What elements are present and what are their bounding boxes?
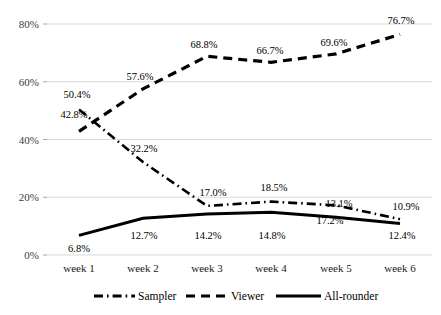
chart-canvas: 80% 60% 40% 20% 0% week 1 week 2 week 3 … <box>0 0 441 315</box>
legend-label-sampler[interactable]: Sampler <box>138 290 176 303</box>
data-label-viewer-week-4: 66.7% <box>256 45 283 56</box>
x-tick-label-week-2: week 2 <box>127 262 158 274</box>
data-label-sampler-week-1: 50.4% <box>63 89 90 100</box>
y-tick-label-80: 80% <box>19 18 39 30</box>
data-label-sampler-week-5: 17.2% <box>316 215 343 226</box>
data-label-sampler-week-6: 12.4% <box>388 230 415 241</box>
data-label-allrounder-week-6: 10.9% <box>392 201 419 212</box>
data-label-allrounder-week-5: 13.1% <box>325 198 352 209</box>
data-label-viewer-week-5: 69.6% <box>320 37 347 48</box>
y-tick-label-40: 40% <box>19 134 39 146</box>
legend-label-viewer[interactable]: Viewer <box>231 290 264 302</box>
x-tick-label-week-5: week 5 <box>320 262 352 274</box>
data-label-allrounder-week-1: 6.8% <box>68 243 90 254</box>
data-label-viewer-week-6: 76.7% <box>387 15 414 26</box>
x-tick-label-week-6: week 6 <box>384 262 416 274</box>
data-label-allrounder-week-4: 14.8% <box>258 230 285 241</box>
y-tick-label-20: 20% <box>19 191 39 203</box>
data-label-sampler-week-3: 17.0% <box>199 187 226 198</box>
data-label-sampler-week-4: 18.5% <box>260 182 287 193</box>
x-tick-label-week-4: week 4 <box>255 262 287 274</box>
x-tick-label-week-3: week 3 <box>191 262 223 274</box>
x-tick-label-week-1: week 1 <box>63 262 94 274</box>
line-chart: 80% 60% 40% 20% 0% week 1 week 2 week 3 … <box>0 0 441 315</box>
legend-label-allrounder[interactable]: All-rounder <box>324 290 378 302</box>
data-label-viewer-week-2: 57.6% <box>126 71 153 82</box>
data-label-viewer-week-1: 42.8% <box>60 109 87 120</box>
data-label-allrounder-week-3: 14.2% <box>194 230 221 241</box>
data-label-sampler-week-2: 32.2% <box>130 143 157 154</box>
y-tick-label-60: 60% <box>19 76 39 88</box>
y-tick-label-0: 0% <box>24 249 39 261</box>
data-label-viewer-week-3: 68.8% <box>190 39 217 50</box>
data-label-allrounder-week-2: 12.7% <box>130 230 157 241</box>
